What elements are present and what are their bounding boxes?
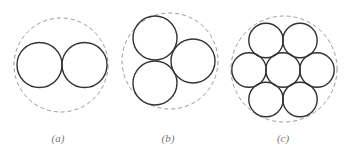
packed-circle xyxy=(133,16,177,60)
panel-a xyxy=(14,18,108,112)
panel-b-label: (b) xyxy=(148,132,188,144)
enclosing-dashed-circle xyxy=(14,18,108,112)
packed-circle xyxy=(283,23,317,57)
packed-circle xyxy=(249,82,283,116)
packed-circle xyxy=(283,82,317,116)
packed-circle xyxy=(232,53,266,87)
packed-circle xyxy=(300,53,334,87)
packed-circle xyxy=(171,39,215,83)
panel-c xyxy=(231,16,337,122)
panel-b xyxy=(122,13,218,109)
panel-c-label: (c) xyxy=(263,132,303,144)
packed-circle xyxy=(17,43,62,88)
packed-circle xyxy=(249,23,283,57)
packed-circle xyxy=(62,43,107,88)
packed-circle xyxy=(266,53,300,87)
panel-a-label: (a) xyxy=(38,132,78,144)
packed-circle xyxy=(133,61,177,105)
